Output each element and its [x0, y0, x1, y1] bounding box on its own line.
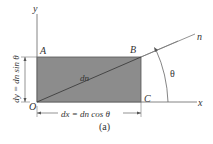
stress-element-diagram: y x A B C O dn n θ dx = dn cos θ dy = dn…	[0, 0, 213, 144]
figure-caption: (a)	[99, 121, 110, 133]
point-a-label: A	[39, 45, 47, 56]
dx-arrow-right	[137, 112, 141, 115]
dx-arrow-left	[37, 112, 41, 115]
dy-dimension-label: dy = dn sin θ	[11, 55, 21, 103]
normal-n-ext	[141, 34, 195, 57]
point-b-label: B	[130, 44, 136, 55]
point-c-label: C	[144, 93, 151, 104]
angle-theta-label: θ	[170, 68, 175, 79]
origin-o-label: O	[29, 101, 36, 112]
dy-arrow-top	[24, 57, 27, 61]
angle-arc	[156, 50, 168, 102]
x-axis-label: x	[197, 97, 203, 108]
diagonal-dn-label: dn	[80, 73, 90, 83]
normal-n-label: n	[197, 31, 202, 42]
dy-arrow-bottom	[24, 98, 27, 102]
y-axis-label: y	[32, 3, 38, 14]
dx-dimension-label: dx = dn cos θ	[61, 109, 111, 119]
